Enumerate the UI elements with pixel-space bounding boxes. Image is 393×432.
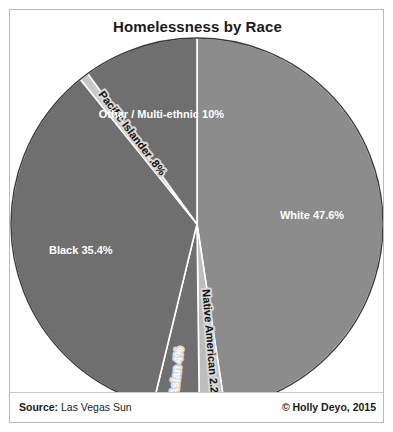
- source-label: Source:: [19, 401, 58, 413]
- pie-slice-label: Other / Multi-ethnic 10%: [99, 108, 225, 120]
- copyright-credit: © Holly Deyo, 2015: [282, 401, 376, 413]
- source-value: Las Vegas Sun: [58, 401, 132, 413]
- pie-chart-svg: White 47.6%Native American 2.2%Native Am…: [10, 10, 384, 423]
- chart-footer: Source: Las Vegas Sun © Holly Deyo, 2015: [10, 392, 384, 422]
- pie-slices: [11, 38, 383, 410]
- pie-slice-label: White 47.6%: [280, 209, 344, 221]
- pie-chart: White 47.6%Native American 2.2%Native Am…: [10, 10, 384, 423]
- pie-slice: [197, 38, 383, 408]
- pie-slice-label: Black 35.4%: [49, 244, 113, 256]
- source-note: Source: Las Vegas Sun: [19, 401, 132, 413]
- chart-card: Homelessness by Race White 47.6%Native A…: [9, 9, 384, 423]
